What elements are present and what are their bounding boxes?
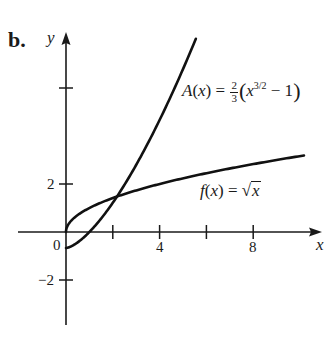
plot-area bbox=[0, 0, 331, 341]
a-exponent: 3/2 bbox=[254, 80, 267, 91]
f-of-x-formula-label: f(x) = √x bbox=[200, 181, 261, 199]
x-axis-label: x bbox=[316, 236, 324, 253]
y-tick-label-2: 2 bbox=[47, 177, 55, 192]
x-tick-label-8: 8 bbox=[249, 240, 257, 255]
part-label: b. bbox=[8, 29, 26, 51]
origin-label: 0 bbox=[53, 238, 61, 253]
a-base: x bbox=[246, 81, 254, 100]
two-thirds-fraction: 23 bbox=[230, 80, 238, 104]
a-of-x-formula-label: A(x) = 23(x3/2 − 1) bbox=[182, 80, 300, 104]
a-fn-arg: (x) bbox=[192, 81, 211, 100]
a-tail: − 1 bbox=[267, 81, 294, 100]
a-fn-name: A bbox=[182, 81, 192, 100]
x-axis bbox=[18, 228, 322, 237]
f-fn-arg: (x) bbox=[205, 181, 224, 200]
f-equals: = bbox=[224, 181, 242, 200]
radical-sign-icon: √ bbox=[242, 181, 251, 200]
y-tick-label-minus-2: −2 bbox=[38, 273, 54, 288]
curve-a-of-x bbox=[66, 39, 196, 248]
x-tick-label-4: 4 bbox=[156, 240, 164, 255]
y-axis bbox=[62, 32, 71, 325]
a-equals: = bbox=[211, 81, 229, 100]
curve-f-sqrt-x bbox=[66, 155, 304, 232]
radicand: x bbox=[251, 181, 261, 199]
y-axis-label: y bbox=[47, 29, 55, 46]
